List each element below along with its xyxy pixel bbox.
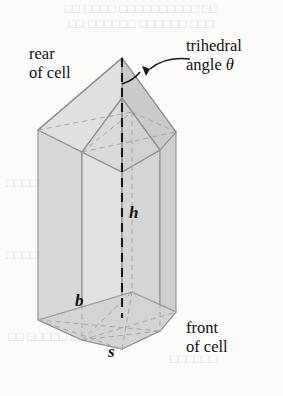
prism-right-wall bbox=[160, 132, 176, 331]
rear-of-cell-line2: of cell bbox=[29, 63, 71, 82]
base-variable-label: b bbox=[75, 291, 84, 311]
front-of-cell-label: front of cell bbox=[186, 318, 228, 356]
trihedral-angle-line2: angle θ bbox=[186, 55, 242, 74]
rear-of-cell-line1: rear bbox=[29, 44, 71, 63]
front-of-cell-line1: front bbox=[186, 318, 228, 337]
trihedral-angle-word: angle bbox=[186, 55, 226, 74]
trihedral-angle-leader-line bbox=[150, 58, 190, 69]
height-variable-label: h bbox=[129, 203, 138, 223]
theta-symbol: θ bbox=[226, 55, 234, 74]
front-of-cell-line2: of cell bbox=[186, 337, 228, 356]
rear-of-cell-label: rear of cell bbox=[29, 44, 71, 82]
trihedral-angle-arrowhead bbox=[142, 66, 150, 76]
trihedral-angle-line1: trihedral bbox=[186, 36, 242, 55]
side-variable-label: s bbox=[108, 342, 115, 362]
honeycomb-cell-figure: □□ □□□□ □□□□□□□□□□ □□ □□ □□□□□□ □□□□□□ □… bbox=[0, 0, 283, 396]
trihedral-angle-label: trihedral angle θ bbox=[186, 36, 242, 74]
